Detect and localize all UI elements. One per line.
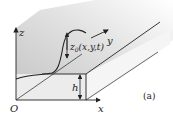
diagram-canvas: z O x y z0(x,y,t) h (a) — [0, 0, 173, 116]
y-axis-label: y — [106, 35, 113, 46]
surface-label-args: (x,y,t) — [79, 42, 105, 52]
origin-label: O — [10, 103, 18, 114]
x-axis-label: x — [98, 103, 104, 114]
panel-label: (a) — [143, 91, 155, 101]
height-label: h — [72, 82, 78, 93]
z-axis-label: z — [18, 27, 25, 38]
surface-elevation-label: z0(x,y,t) — [69, 42, 104, 53]
